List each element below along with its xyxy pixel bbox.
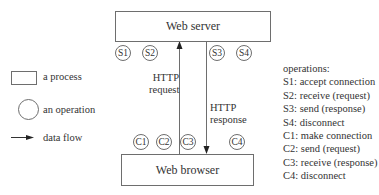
legend-process-swatch [11, 71, 37, 85]
web-browser-box: Web browser [121, 154, 254, 186]
operation-desc-s4: S4: disconnect [283, 116, 377, 129]
request-arrowhead-icon [177, 41, 183, 49]
operation-desc-s3: S3: send (response) [283, 102, 377, 115]
response-arrowhead-icon [204, 146, 210, 154]
operation-desc-c3: C3: receive (response) [283, 156, 377, 169]
operations-title: operations: [283, 62, 377, 75]
operation-s2: S2 [142, 45, 158, 61]
request-label: HTTP request [149, 72, 179, 96]
operation-s4: S4 [236, 45, 252, 61]
operation-c3: C3 [180, 134, 196, 150]
response-label: HTTP response [210, 102, 247, 126]
web-server-label: Web server [166, 19, 220, 34]
legend-operation-circle-icon [18, 99, 39, 120]
operation-desc-s1: S1: accept connection [283, 75, 377, 88]
operation-s3: S3 [209, 45, 225, 61]
web-browser-label: Web browser [156, 163, 219, 178]
operation-desc-c1: C1: make connection [283, 129, 377, 142]
web-server-box: Web server [115, 11, 271, 42]
legend-process-label: a process [43, 71, 82, 83]
operation-c1: C1 [133, 134, 149, 150]
operation-c4: C4 [229, 134, 245, 150]
legend-data-flow-label: data flow [43, 132, 82, 144]
operation-desc-c2: C2: send (request) [283, 142, 377, 155]
operation-c2: C2 [156, 134, 172, 150]
legend-operation-label: an operation [43, 104, 95, 116]
operation-s1: S1 [115, 45, 131, 61]
operation-desc-s2: S2: receive (request) [283, 89, 377, 102]
operations-list: operations: S1: accept connection S2: re… [283, 62, 377, 183]
operation-desc-c4: C4: disconnect [283, 169, 377, 182]
legend-arrowhead-icon [26, 135, 34, 140]
